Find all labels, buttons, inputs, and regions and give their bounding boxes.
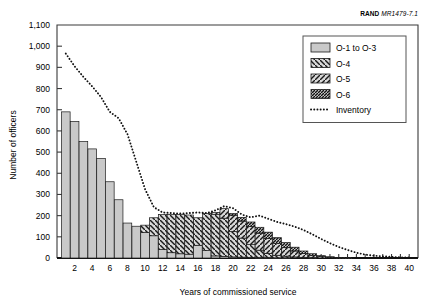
- x-tick-label: 22: [246, 263, 256, 273]
- legend: O-1 to O-3O-4O-5O-6Inventory: [303, 36, 406, 123]
- bar-segment: [238, 217, 247, 221]
- bar-segment: [194, 218, 203, 246]
- legend-swatch: [311, 43, 330, 52]
- bar-segment: [97, 158, 106, 258]
- x-tick-label: 36: [369, 263, 379, 273]
- bar-segment: [264, 239, 273, 254]
- bar-segment: [334, 258, 343, 259]
- bar-segment: [273, 238, 282, 244]
- x-tick-label: 34: [352, 263, 362, 273]
- y-tick-label: 600: [36, 126, 50, 136]
- bar-segment: [282, 243, 291, 248]
- bar-segment: [273, 255, 282, 258]
- bar-segment: [176, 254, 185, 258]
- bar-segment: [202, 251, 211, 258]
- legend-label: O-5: [336, 74, 350, 84]
- x-tick-label: 38: [387, 263, 397, 273]
- bar-segment: [255, 227, 264, 233]
- legend-label: O-1 to O-3: [336, 43, 376, 53]
- x-tick-label: 40: [404, 263, 414, 273]
- legend-item: O-1 to O-3: [311, 43, 376, 53]
- y-tick-label: 700: [36, 105, 50, 115]
- x-tick-label: 14: [176, 263, 186, 273]
- bar-segment: [264, 253, 273, 257]
- bar-segment: [343, 258, 352, 259]
- x-tick-label: 18: [211, 263, 221, 273]
- source-note: RAND MR1479-7.1: [360, 10, 418, 17]
- bar-segment: [220, 218, 229, 256]
- x-tick-label: 20: [228, 263, 238, 273]
- legend-swatch: [311, 74, 330, 83]
- bar-segment: [185, 215, 194, 254]
- y-tick-label: 900: [36, 62, 50, 72]
- bar-series-group: [61, 112, 351, 259]
- x-tick-label: 6: [107, 263, 112, 273]
- legend-swatch: [311, 90, 330, 99]
- bar-segment: [132, 226, 141, 258]
- x-tick-label: 8: [125, 263, 130, 273]
- bar-segment: [229, 232, 238, 257]
- x-tick-label: 28: [299, 263, 309, 273]
- bar-segment: [158, 215, 167, 250]
- bar-segment: [246, 227, 255, 245]
- bar-segment: [264, 232, 273, 238]
- bar-segment: [141, 233, 150, 258]
- bar-segment: [88, 149, 97, 258]
- y-tick-label: 0: [45, 253, 50, 263]
- bar-segment: [70, 121, 79, 258]
- bar-segment: [255, 250, 264, 257]
- bar-segment: [290, 251, 299, 257]
- bar-segment: [282, 248, 291, 256]
- bar-segment: [238, 238, 247, 257]
- legend-label: Inventory: [336, 105, 372, 115]
- bar-segment: [246, 222, 255, 227]
- bar-segment: [202, 214, 211, 251]
- bar-segment: [238, 221, 247, 238]
- bar-segment: [299, 254, 308, 258]
- y-axis-title: Number of officers: [8, 110, 18, 179]
- bar-segment: [158, 250, 167, 258]
- bar-segment: [176, 215, 185, 254]
- y-tick-label: 300: [36, 189, 50, 199]
- y-tick-label: 1,000: [29, 41, 51, 51]
- x-tick-label: 16: [193, 263, 203, 273]
- bar-segment: [123, 223, 132, 258]
- bar-segment: [106, 182, 115, 258]
- x-axis-title: Years of commissioned service: [180, 287, 297, 297]
- bar-segment: [326, 257, 335, 258]
- bar-segment: [167, 215, 176, 253]
- source-figure-id: MR1479-7.1: [381, 10, 418, 17]
- x-tick-label: 26: [281, 263, 291, 273]
- bar-segment: [246, 245, 255, 258]
- bar-segment: [299, 251, 308, 254]
- bar-chart: 01002003004005006007008009001,0001,100 2…: [0, 0, 438, 305]
- bar-segment: [290, 247, 299, 251]
- bar-segment: [150, 236, 159, 258]
- bar-segment: [194, 245, 203, 258]
- bar-segment: [220, 209, 229, 219]
- bar-segment: [61, 112, 70, 258]
- legend-label: O-4: [336, 59, 350, 69]
- bar-segment: [141, 225, 150, 232]
- y-tick-label: 200: [36, 211, 50, 221]
- x-tick-label: 12: [158, 263, 168, 273]
- bar-segment: [308, 254, 317, 256]
- bar-segment: [150, 218, 159, 236]
- bar-segment: [255, 233, 264, 250]
- y-tick-label: 800: [36, 84, 50, 94]
- bar-segment: [114, 200, 123, 258]
- x-tick-label: 2: [72, 263, 77, 273]
- y-tick-label: 500: [36, 147, 50, 157]
- bar-segment: [185, 254, 194, 258]
- x-tick-label: 24: [264, 263, 274, 273]
- legend-swatch: [311, 59, 330, 68]
- figure-container: RAND MR1479-7.1 010020030040050060070080…: [0, 0, 438, 305]
- bar-segment: [167, 253, 176, 258]
- bar-segment: [229, 216, 238, 232]
- source-org: RAND: [360, 10, 379, 17]
- x-tick-label: 10: [140, 263, 150, 273]
- y-tick-label: 100: [36, 232, 50, 242]
- bar-segment: [79, 142, 88, 259]
- x-tick-label: 30: [316, 263, 326, 273]
- legend-label: O-6: [336, 90, 350, 100]
